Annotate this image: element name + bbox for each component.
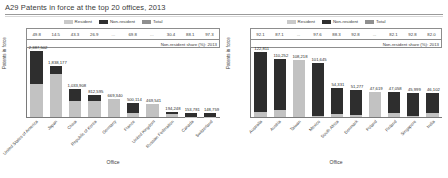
stacked-bar[interactable] [274,59,286,118]
legend-item-non-resident: Non-resident [322,19,358,24]
x-tick: India [423,118,442,160]
share-cell: 92.1 [251,29,270,39]
bar-group[interactable]: 2,387,502 [27,48,46,117]
stacked-bar[interactable] [350,90,362,117]
share-cell: 82.1 [384,29,403,39]
bar-group[interactable]: 101,645 [308,48,327,117]
stacked-bar[interactable] [127,103,139,117]
x-tick-label: Japan [47,119,59,131]
legend-swatch-total-icon [365,20,374,24]
x-axis-ticks-left: United States of AmericaJapanChinaRepubl… [26,118,220,160]
stacked-bar[interactable] [407,93,419,118]
x-tick: Russian Federation [162,118,181,160]
y-axis-label-left: Patents in force [2,37,7,69]
bar-segment-resident [388,113,400,117]
bar-value-label: 500,114 [127,97,142,102]
share-cell: ... [104,29,123,39]
legend-swatch-resident-icon [64,20,73,24]
x-tick-label: Canada [180,119,194,133]
bar-value-label: 1,838,177 [48,60,67,65]
stacked-bar[interactable] [30,51,42,117]
legend-item-total: Total [365,19,385,24]
bar-group[interactable]: 1,033,908 [66,48,85,117]
legend-item-resident: Resident [64,19,92,24]
stacked-bar[interactable] [331,88,343,117]
bar-group[interactable]: 669,340 [104,48,123,117]
bar-value-label: 669,340 [107,93,122,98]
bar-segment-resident [146,104,158,117]
share-cell: ... [142,29,161,39]
bar-group[interactable]: 46,102 [423,48,442,117]
bar-group[interactable]: 110,252 [270,48,289,117]
bar-group[interactable]: 469,541 [143,48,162,117]
legend-label-non-resident: Non-resident [110,19,135,24]
x-tick-label: Denmark [343,119,359,135]
bar-value-label: 194,248 [165,106,180,111]
stacked-bar[interactable] [388,92,400,117]
bar-segment-non-resident [426,93,438,113]
share-cell: 97.6 [308,29,327,39]
legend-item-non-resident: Non-resident [99,19,135,24]
bar-group[interactable]: 47,619 [366,48,385,117]
bar-segment-non-resident [407,93,419,116]
stacked-bar[interactable] [369,92,381,117]
bar-value-label: 51,277 [351,84,364,89]
bar-segment-non-resident [69,89,81,101]
bar-group[interactable]: 47,058 [385,48,404,117]
bar-group[interactable]: 148,759 [201,48,220,117]
stacked-bar[interactable] [108,99,120,118]
stacked-bar[interactable] [146,104,158,117]
x-tick: South Africa [327,118,346,160]
x-tick: Singapore [404,118,423,160]
share-cell: ... [365,29,384,39]
x-tick: Austria [269,118,288,160]
x-axis-label-left: Office [0,159,226,165]
stacked-bar[interactable] [88,95,100,118]
bar-group[interactable]: 500,114 [123,48,142,117]
stacked-bar[interactable] [204,113,216,117]
bar-value-label: 2,387,502 [29,45,48,50]
bar-group[interactable]: 108,218 [289,48,308,117]
chart-panel-right: Resident Non-resident Total 92.187.1...9… [224,17,448,178]
stacked-bar[interactable] [69,89,81,118]
bar-group[interactable]: 194,248 [162,48,181,117]
bar-group[interactable]: 812,595 [85,48,104,117]
stacked-bar[interactable] [312,63,324,117]
bar-value-label: 46,102 [427,87,440,92]
bar-group[interactable]: 51,277 [346,48,365,117]
bar-group[interactable]: 54,331 [327,48,346,117]
share-cell: 92.8 [346,29,365,39]
bar-segment-resident [50,74,62,118]
bar-segment-resident [426,113,438,117]
legend-right: Resident Non-resident Total [224,19,448,24]
title-divider [5,14,443,15]
legend-item-resident: Resident [287,19,315,24]
bar-segment-non-resident [274,59,286,110]
x-tick-label: Taiwan [289,119,302,132]
stacked-bar[interactable] [185,113,197,117]
bar-group[interactable]: 122,811 [251,48,270,117]
x-tick-label: Poland [365,119,378,132]
bar-group[interactable]: 153,781 [181,48,200,117]
x-tick-label: Germany [101,119,117,135]
x-tick: Japan [45,118,64,160]
bar-segment-non-resident [50,66,62,73]
x-tick-label: Austria [269,119,282,132]
stacked-bar[interactable] [293,60,305,118]
bar-value-label: 54,331 [332,82,345,87]
share-cell: 97.3 [200,29,219,39]
stacked-bar[interactable] [166,112,178,117]
x-tick-label: India [426,119,436,129]
x-tick: Canada [181,118,200,160]
x-tick: Taiwan [288,118,307,160]
bar-value-label: 153,781 [185,107,200,112]
bar-segment-resident [293,60,305,118]
stacked-bar[interactable] [426,93,438,118]
bar-group[interactable]: 45,999 [404,48,423,117]
bar-group[interactable]: 1,838,177 [46,48,65,117]
stacked-bar[interactable] [50,66,62,117]
x-tick: Switzerland [201,118,220,160]
bar-value-label: 122,811 [254,46,269,51]
stacked-bar[interactable] [254,52,266,117]
share-cell: 88.3 [327,29,346,39]
